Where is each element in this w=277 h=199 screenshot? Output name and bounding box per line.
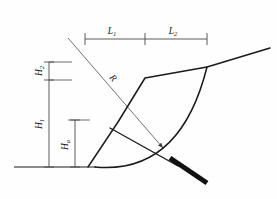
horizontal-dimension-group: L1 L2 (85, 26, 207, 45)
label-l2: L2 (168, 26, 178, 37)
slope-profile-line (88, 48, 270, 167)
diagram-canvas: L1 L2 H2 H1 (0, 0, 277, 199)
label-h1: H1 (34, 119, 45, 130)
label-l1: L1 (107, 26, 117, 37)
vertical-dimension-inner-group: Ha (60, 120, 90, 167)
vertical-dimension-outer-group: H2 H1 (34, 62, 72, 167)
blade-bar (170, 158, 207, 183)
label-r: R (107, 72, 119, 84)
label-h2: H2 (34, 65, 45, 77)
diagram-svg: L1 L2 H2 H1 (0, 0, 277, 199)
label-ha: Ha (60, 140, 71, 151)
